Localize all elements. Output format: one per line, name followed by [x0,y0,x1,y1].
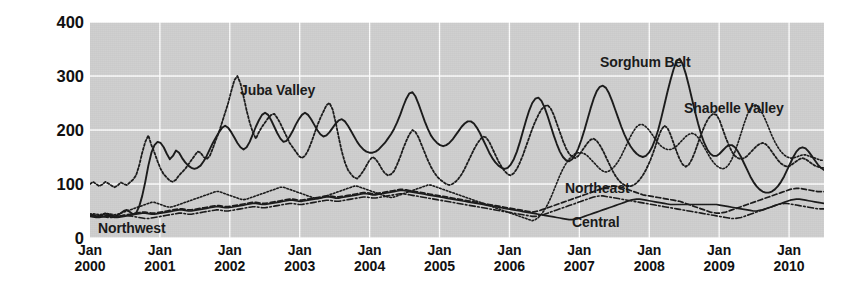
y-tick-label: 400 [40,14,84,31]
x-tick-year: 2001 [120,259,200,275]
x-tick-month: Jan [609,243,689,259]
x-tick-year: 2006 [469,259,549,275]
chart-figure: Cereal per goat (kg, local quality) 0100… [0,0,865,294]
plot-area [90,22,824,238]
x-tick-label: Jan2009 [679,243,759,274]
x-tick-year: 2007 [539,259,619,275]
x-tick-label: Jan2001 [120,243,200,274]
y-tick-label: 200 [40,122,84,139]
x-tick-month: Jan [679,243,759,259]
x-tick-label: Jan2006 [469,243,549,274]
x-tick-month: Jan [260,243,340,259]
x-tick-label: Jan2008 [609,243,689,274]
chart-canvas [90,22,824,238]
series-label-northwest: Northwest [98,220,166,236]
series-label-shabelle-valley: Shabelle Valley [684,100,784,116]
x-tick-year: 2002 [190,259,270,275]
x-tick-year: 2003 [260,259,340,275]
x-tick-year: 2008 [609,259,689,275]
x-tick-month: Jan [400,243,480,259]
series-label-central: Central [572,214,620,230]
series-line [90,59,824,217]
x-tick-label: Jan2002 [190,243,270,274]
x-tick-year: 2009 [679,259,759,275]
x-tick-year: 2004 [330,259,410,275]
x-tick-label: Jan2005 [400,243,480,274]
x-tick-month: Jan [330,243,410,259]
x-tick-label: Jan2000 [50,243,130,274]
series-label-juba-valley: Juba Valley [240,82,315,98]
x-tick-month: Jan [539,243,619,259]
x-tick-month: Jan [469,243,549,259]
x-tick-label: Jan2003 [260,243,340,274]
x-tick-month: Jan [120,243,200,259]
y-tick-label: 100 [40,176,84,193]
series-label-northeast: Northeast [565,180,629,196]
y-tick-label: 300 [40,68,84,85]
x-tick-year: 2005 [400,259,480,275]
x-tick-label: Jan2004 [330,243,410,274]
x-tick-month: Jan [50,243,130,259]
series-label-sorghum-belt: Sorghum Belt [600,54,691,70]
x-tick-month: Jan [749,243,829,259]
x-tick-label: Jan2007 [539,243,619,274]
x-tick-year: 2000 [50,259,130,275]
x-tick-year: 2010 [749,259,829,275]
x-tick-month: Jan [190,243,270,259]
series-line [90,186,824,216]
x-tick-label: Jan2010 [749,243,829,274]
